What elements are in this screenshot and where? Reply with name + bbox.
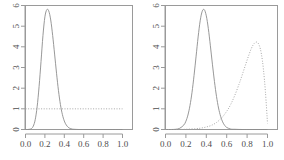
figure-two-density-panels: 0 1 2 3 4 5 6 0.0 0.2 bbox=[0, 0, 284, 160]
x-tick-label: 0.2 bbox=[39, 139, 50, 149]
plot-box-right bbox=[166, 6, 278, 130]
y-tick-label: 1 bbox=[151, 107, 161, 112]
y-tick-label: 2 bbox=[11, 86, 21, 91]
x-tick-label: 0.6 bbox=[78, 139, 90, 149]
x-tick-label: 0.0 bbox=[160, 139, 172, 149]
y-tick-label: 0 bbox=[11, 127, 21, 132]
x-tick-label: 0.8 bbox=[97, 139, 109, 149]
density-curve-posterior-1 bbox=[166, 9, 268, 129]
x-tick-label: 0.4 bbox=[201, 139, 213, 149]
y-tick-label: 5 bbox=[11, 23, 21, 28]
density-curve-posterior bbox=[26, 9, 123, 129]
y-tick-label: 4 bbox=[151, 44, 161, 49]
plot-panel-left: 0 1 2 3 4 5 6 0.0 0.2 bbox=[0, 0, 142, 160]
y-tick-label: 6 bbox=[11, 3, 21, 8]
y-tick-label: 4 bbox=[11, 44, 21, 49]
y-tick-label: 6 bbox=[151, 3, 161, 8]
x-tick-marks-left bbox=[26, 134, 123, 138]
y-axis-right: 0 1 2 3 4 5 6 bbox=[151, 3, 165, 132]
y-tick-label: 5 bbox=[151, 23, 161, 28]
series-group-left bbox=[26, 9, 123, 129]
series-group-right bbox=[166, 9, 268, 129]
x-tick-label: 0.8 bbox=[241, 139, 253, 149]
y-tick-label: 0 bbox=[151, 127, 161, 132]
density-curve-posterior-2 bbox=[166, 42, 268, 129]
x-tick-marks-right bbox=[166, 134, 268, 138]
plot-box-left bbox=[26, 6, 133, 130]
x-tick-label: 0.6 bbox=[221, 139, 233, 149]
y-tick-label: 3 bbox=[11, 65, 21, 70]
y-tick-label: 1 bbox=[11, 107, 21, 112]
plot-svg-left: 0 1 2 3 4 5 6 0.0 0.2 bbox=[0, 0, 142, 160]
x-axis-left: 0.0 0.2 0.4 0.6 0.8 1.0 bbox=[20, 134, 129, 149]
x-tick-label: 0.0 bbox=[20, 139, 32, 149]
y-tick-marks-right bbox=[161, 6, 165, 130]
plot-panel-right: 0 1 2 3 4 5 6 0.0 0.2 bbox=[142, 0, 284, 160]
x-tick-label: 1.0 bbox=[117, 139, 129, 149]
plot-svg-right: 0 1 2 3 4 5 6 0.0 0.2 bbox=[142, 0, 284, 160]
y-tick-label: 3 bbox=[151, 65, 161, 70]
x-tick-label: 0.2 bbox=[180, 139, 191, 149]
x-tick-label: 1.0 bbox=[262, 139, 274, 149]
y-tick-marks-left bbox=[21, 6, 25, 130]
x-tick-label: 0.4 bbox=[59, 139, 71, 149]
y-tick-label: 2 bbox=[151, 86, 161, 91]
x-axis-right: 0.0 0.2 0.4 0.6 0.8 1.0 bbox=[160, 134, 274, 149]
y-axis-left: 0 1 2 3 4 5 6 bbox=[11, 3, 25, 132]
